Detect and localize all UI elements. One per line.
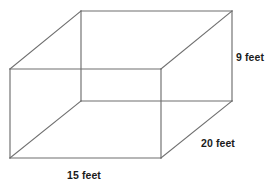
edge-connect-top-left xyxy=(10,11,81,69)
dimension-label-depth: 20 feet xyxy=(201,137,235,149)
edge-connect-bottom-right xyxy=(161,101,232,158)
dimension-label-width: 15 feet xyxy=(67,169,101,181)
prism-wireframe-svg xyxy=(0,0,276,188)
prism-diagram-figure: 9 feet 20 feet 15 feet xyxy=(0,0,276,188)
edge-connect-bottom-left xyxy=(10,101,81,158)
dimension-label-height: 9 feet xyxy=(236,51,264,63)
edge-connect-top-right xyxy=(161,11,232,69)
